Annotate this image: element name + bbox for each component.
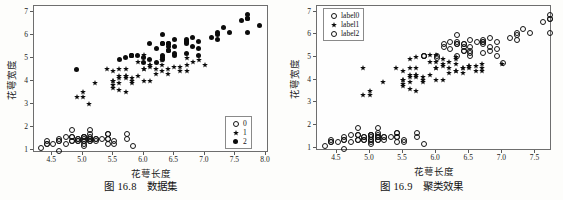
data-point-open-circle	[355, 137, 361, 143]
data-point-open-circle	[447, 46, 453, 52]
data-point-filled-circle	[147, 41, 152, 46]
data-point-open-circle	[75, 138, 81, 144]
y-axis-tick-mark	[30, 34, 33, 35]
caption-text: 聚类效果	[423, 181, 463, 192]
figure-caption-dataset: 图 16.8数据集	[0, 178, 281, 193]
data-point-open-circle	[394, 134, 400, 140]
data-point-open-circle	[322, 143, 328, 149]
y-axis-tick-mark	[30, 103, 33, 104]
y-axis-tick-mark	[30, 80, 33, 81]
data-point-filled-circle	[141, 60, 146, 65]
data-point-open-circle	[44, 141, 50, 147]
x-axis-tick-label: 5.5	[108, 155, 117, 164]
data-point-filled-circle	[245, 30, 250, 35]
y-axis-tick-label: 3	[294, 97, 311, 106]
data-point-open-circle	[341, 146, 347, 152]
legend-label: 0	[243, 119, 247, 128]
legend-item: 0	[230, 119, 247, 128]
legend-marker-open-circle-icon	[328, 13, 339, 19]
y-axis-tick-label: 4	[11, 75, 28, 84]
data-point-open-circle	[421, 53, 427, 59]
data-point-open-circle	[474, 39, 480, 45]
data-point-open-circle	[50, 141, 56, 147]
y-axis-tick-mark	[313, 147, 316, 148]
y-axis-tick-mark	[313, 33, 316, 34]
data-point-filled-circle	[245, 16, 250, 21]
legend-item: 2	[230, 137, 247, 146]
x-axis-tick-label: 7.0	[199, 155, 208, 164]
data-point-open-circle	[348, 132, 354, 138]
y-axis-tick-mark	[313, 11, 316, 12]
figure-page: 花萼宽度 花萼长度 012 图 16.8数据集 4.55.05.56.06.57…	[0, 0, 563, 200]
legend-marker-filled-circle-icon	[230, 139, 241, 144]
data-point-open-circle	[461, 44, 467, 50]
data-point-open-circle	[434, 53, 440, 59]
legend-item: 1	[230, 128, 247, 137]
legend-marker-open-circle-icon	[230, 121, 241, 127]
data-point-filled-circle	[129, 53, 134, 58]
data-point-open-circle	[361, 137, 367, 143]
data-point-open-circle	[487, 35, 493, 41]
data-point-filled-circle	[190, 35, 195, 40]
legend-label: label2	[341, 29, 359, 38]
data-point-open-circle	[480, 50, 486, 56]
legend-marker-open-circle-icon	[328, 31, 339, 37]
data-point-open-circle	[63, 134, 69, 140]
data-point-open-circle	[447, 39, 453, 45]
data-point-open-circle	[494, 46, 500, 52]
data-point-open-circle	[500, 60, 506, 66]
figure-caption-clustering: 图 16.9聚类效果	[281, 178, 562, 193]
y-axis-tick-mark	[313, 79, 316, 80]
data-point-open-circle	[527, 30, 533, 36]
legend-dataset: 012	[225, 116, 252, 149]
data-point-filled-circle	[135, 53, 140, 58]
legend-clustering: label0label1label2	[323, 8, 364, 41]
x-axis-tick-label: 6.0	[138, 155, 147, 164]
data-point-open-circle	[375, 125, 381, 131]
data-point-filled-circle	[154, 46, 159, 51]
caption-number: 图 16.8	[104, 181, 136, 192]
y-axis-tick-label: 5	[294, 51, 311, 60]
legend-item: label2	[328, 29, 359, 38]
data-point-open-circle	[56, 138, 62, 144]
figure-dataset: 花萼宽度 花萼长度 012 图 16.8数据集 4.55.05.56.06.57…	[0, 0, 281, 200]
data-point-open-circle	[520, 26, 526, 32]
y-axis-tick-label: 1	[11, 144, 28, 153]
data-point-filled-circle	[160, 55, 165, 60]
y-axis-tick-label: 7	[11, 6, 28, 15]
data-point-open-circle	[111, 141, 117, 147]
data-point-open-circle	[494, 53, 500, 59]
data-point-open-circle	[507, 35, 513, 41]
data-point-filled-circle	[257, 23, 262, 28]
data-point-filled-circle	[184, 51, 189, 56]
y-axis-tick-label: 2	[294, 119, 311, 128]
x-axis-tick-label: 6.5	[169, 155, 178, 164]
y-axis-tick-label: 4	[294, 74, 311, 83]
y-axis-tick-label: 2	[11, 121, 28, 130]
data-point-open-circle	[388, 134, 394, 140]
data-point-open-circle	[547, 16, 553, 22]
x-axis-tick-label: 7.0	[497, 153, 506, 162]
data-point-open-circle	[87, 134, 93, 140]
y-axis-tick-mark	[313, 56, 316, 57]
data-point-open-circle	[355, 125, 361, 131]
data-point-filled-circle	[172, 37, 177, 42]
legend-marker-star-icon	[328, 22, 339, 28]
data-point-open-circle	[494, 39, 500, 45]
legend-label: 1	[243, 128, 247, 137]
data-point-filled-circle	[227, 30, 232, 35]
data-point-filled-circle	[123, 55, 128, 60]
data-point-filled-circle	[172, 51, 177, 56]
data-point-filled-circle	[154, 60, 159, 65]
y-axis-tick-mark	[30, 149, 33, 150]
data-point-filled-circle	[190, 44, 195, 49]
data-point-filled-circle	[172, 44, 177, 49]
y-axis-tick-mark	[30, 57, 33, 58]
figure-clustering: 花萼宽度 花萼长度 label0label1label2 图 16.9聚类效果 …	[281, 0, 562, 200]
data-point-open-circle	[454, 32, 460, 38]
x-axis-tick-label: 4.5	[47, 155, 56, 164]
data-point-open-circle	[467, 37, 473, 43]
legend-label: label1	[341, 20, 359, 29]
data-point-filled-circle	[166, 48, 171, 53]
data-point-filled-circle	[117, 57, 122, 62]
